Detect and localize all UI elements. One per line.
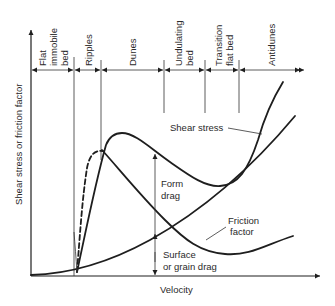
label-form-drag-2: drag [161, 190, 180, 201]
svg-text:bed: bed [184, 50, 195, 66]
shear-stress-leader [228, 128, 262, 134]
friction-factor-leader [206, 227, 226, 240]
regime-transition-flat-bed: Transition [213, 25, 224, 66]
y-axis-label: Shear stress or friction factor [13, 84, 24, 205]
friction-factor-curve [102, 150, 293, 254]
regime-labels: Flat immobile bed Ripples Dunes Undulati… [37, 21, 277, 66]
svg-text:bed: bed [59, 50, 70, 66]
regime-ripples: Ripples [83, 34, 94, 66]
dashed-lower-hint [74, 232, 77, 272]
regime-antidunes: Antidunes [266, 23, 277, 66]
shear-stress-curve [77, 82, 283, 272]
label-form-drag: Form [161, 178, 183, 189]
label-surface-drag-2: or grain drag [163, 261, 217, 272]
svg-text:flat bed: flat bed [224, 35, 235, 66]
regime-dividers [74, 57, 239, 276]
regime-undulating-bed: Undulating [173, 21, 184, 66]
label-friction-factor-2: factor [230, 226, 254, 237]
bedform-regime-diagram: Shear stress or friction factor Velocity… [0, 0, 335, 306]
svg-text:immobile: immobile [48, 28, 59, 66]
regime-flat-immobile-bed: Flat [37, 50, 48, 66]
x-axis-label: Velocity [160, 284, 193, 295]
label-friction-factor: Friction [228, 215, 259, 226]
label-surface-drag: Surface [163, 249, 196, 260]
label-shear-stress: Shear stress [170, 122, 224, 133]
regime-dunes: Dunes [127, 38, 138, 66]
